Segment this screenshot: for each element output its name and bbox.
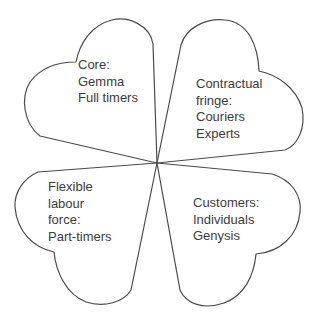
petal-label-contractual-fringe: Contractual fringe: Couriers Experts xyxy=(196,76,262,142)
label-line: Experts xyxy=(196,126,262,143)
petal-label-core: Core: Gemma Full timers xyxy=(78,57,138,107)
label-line: Gemma xyxy=(78,74,138,91)
label-line: Part-timers xyxy=(48,229,112,246)
label-line: Full timers xyxy=(78,90,138,107)
petal-label-flexible-labour-force: Flexible labour force: Part-timers xyxy=(48,179,112,245)
label-line: Core: xyxy=(78,57,138,74)
label-line: Genysis xyxy=(193,228,259,245)
label-line: Contractual xyxy=(196,76,262,93)
label-line: labour xyxy=(48,196,112,213)
petal-label-customers: Customers: Individuals Genysis xyxy=(193,195,259,245)
label-line: fringe: xyxy=(196,93,262,110)
label-line: Flexible xyxy=(48,179,112,196)
label-line: Individuals xyxy=(193,212,259,229)
label-line: force: xyxy=(48,212,112,229)
label-line: Couriers xyxy=(196,109,262,126)
shamrock-diagram xyxy=(0,0,316,316)
label-line: Customers: xyxy=(193,195,259,212)
